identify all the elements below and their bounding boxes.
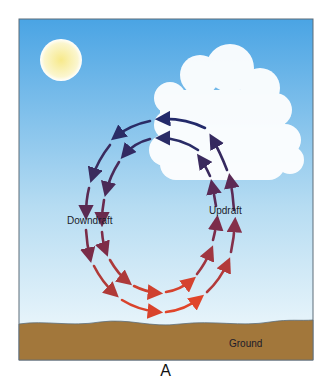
sun-icon [40,39,82,81]
ground-label: Ground [229,338,262,349]
figure-caption: A [0,362,331,380]
downdraft-label: Downdraft [67,215,113,226]
updraft-label: Updraft [209,205,242,216]
ground [19,320,313,360]
convection-diagram [0,0,331,389]
